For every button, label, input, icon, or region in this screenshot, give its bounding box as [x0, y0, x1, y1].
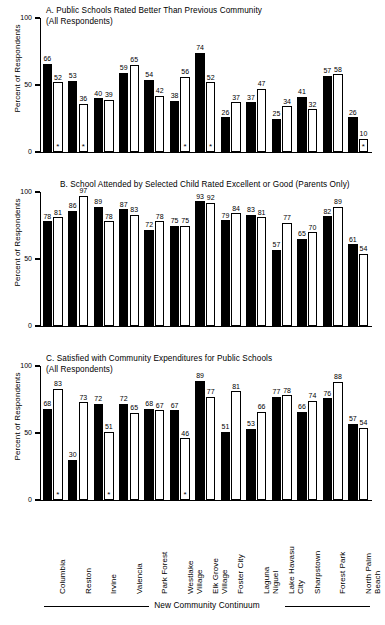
bar-value-label: 58 [330, 66, 346, 73]
bar-solid [246, 429, 255, 500]
bar-open [180, 226, 189, 327]
bar-group: 53*36 [66, 18, 91, 152]
significance-asterisk: * [54, 492, 61, 498]
bar-solid [246, 215, 255, 326]
panel-a-plot-area: 66*5253*3640395965544238*5674*5226373747… [41, 18, 372, 152]
bar-value-label: 39 [101, 91, 117, 98]
bar-value-label: 75 [177, 217, 193, 224]
caption-rule-right [285, 606, 370, 607]
y-tick-label: 0 [8, 322, 32, 329]
bar-group: 7265 [117, 366, 142, 500]
bar-value-label: 10 [355, 130, 371, 137]
bar-group: 4039 [92, 18, 117, 152]
bar-group: 2637 [219, 18, 244, 152]
panel-b-x-axis [40, 326, 372, 327]
significance-asterisk: * [54, 144, 61, 150]
bar-open [130, 65, 139, 152]
bar-open [155, 96, 164, 152]
bar-value-label: 89 [90, 198, 106, 205]
bar-value-label: 84 [228, 205, 244, 212]
bar-group: 66*52 [41, 18, 66, 152]
bar-value-label: 65 [126, 56, 142, 63]
bar-value-label: 74 [304, 392, 320, 399]
bar-value-label: 46 [177, 430, 193, 437]
bar-solid [195, 381, 204, 500]
significance-asterisk: * [181, 144, 188, 150]
bar-solid [297, 412, 306, 500]
y-tick-mark [35, 258, 40, 259]
bar-solid [221, 220, 230, 326]
bar-solid [170, 410, 179, 500]
bar-solid [272, 397, 281, 500]
bar-value-label: 34 [279, 98, 295, 105]
panel-c-plot-area: 68*83307372*517265686767*468977518153667… [41, 366, 372, 500]
bar-value-label: 74 [192, 44, 208, 51]
bar-open [333, 74, 342, 152]
bar-solid [170, 226, 179, 327]
bar-open: * [53, 82, 62, 152]
bar-value-label: 41 [294, 88, 310, 95]
bar-value-label: 83 [50, 380, 66, 387]
bar-group: 3747 [245, 18, 270, 152]
bar-group: 8381 [245, 192, 270, 326]
bar-group: 8783 [117, 192, 142, 326]
bar-solid [94, 207, 103, 326]
bar-group: 7575 [168, 192, 193, 326]
bar-value-label: 81 [50, 209, 66, 216]
bar-value-label: 89 [330, 198, 346, 205]
bar-open [282, 395, 291, 500]
y-tick-mark [35, 84, 40, 85]
bar-value-label: 65 [126, 404, 142, 411]
bar-open: * [359, 139, 368, 152]
bar-value-label: 67 [152, 402, 168, 409]
bar-group: 8977 [194, 366, 219, 500]
bar-open [282, 106, 291, 152]
y-tick-mark [35, 365, 40, 366]
bar-open [130, 413, 139, 500]
bar-group: 8978 [92, 192, 117, 326]
significance-asterisk: * [105, 492, 112, 498]
bar-open: * [206, 82, 215, 152]
significance-asterisk: * [181, 492, 188, 498]
bar-value-label: 36 [75, 95, 91, 102]
bar-open [308, 232, 317, 326]
bar-group: 7881 [41, 192, 66, 326]
bar-solid [272, 119, 281, 153]
bar-open [79, 402, 88, 500]
bar-solid [221, 432, 230, 500]
bar-open [104, 221, 113, 326]
bar-value-label: 54 [355, 419, 371, 426]
y-tick-label: 50 [8, 255, 32, 262]
bar-solid [43, 409, 52, 500]
y-tick-label: 0 [8, 496, 32, 503]
bar-group: 3073 [66, 366, 91, 500]
bar-group: 4132 [296, 18, 321, 152]
bar-solid [144, 409, 153, 500]
bar-open [359, 428, 368, 500]
bar-open: * [79, 104, 88, 152]
bar-group: 6674 [296, 366, 321, 500]
bar-group: 6867 [143, 366, 168, 500]
bar-solid [195, 53, 204, 152]
bar-solid [348, 424, 357, 500]
bar-open [155, 410, 164, 500]
y-tick-mark [35, 499, 40, 500]
bar-value-label: 47 [253, 80, 269, 87]
bar-open [333, 207, 342, 326]
bar-value-label: 77 [203, 388, 219, 395]
y-tick-label: 50 [8, 429, 32, 436]
bar-group: 7984 [219, 192, 244, 326]
bar-solid [272, 250, 281, 326]
bar-open: * [180, 77, 189, 152]
bar-group: 8289 [321, 192, 346, 326]
bar-open [231, 391, 240, 500]
bar-value-label: 83 [126, 206, 142, 213]
bar-open: * [104, 432, 113, 500]
bar-group: 7278 [143, 192, 168, 326]
bar-open [231, 213, 240, 326]
bar-group: 7778 [270, 366, 295, 500]
bar-solid [68, 460, 77, 500]
bar-value-label: 78 [152, 213, 168, 220]
bar-group: 5777 [270, 192, 295, 326]
bar-solid [68, 81, 77, 152]
